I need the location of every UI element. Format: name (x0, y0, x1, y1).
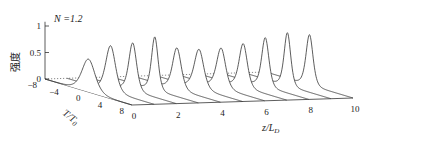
t-axis-label: T/T0 (60, 107, 82, 128)
intensity-tick-label: 0.5 (30, 48, 42, 58)
t-tick-label: 8 (120, 106, 125, 116)
t-tick-label: −8 (27, 80, 37, 90)
z-tick-label: 2 (176, 110, 181, 120)
z-tick-label: 6 (264, 107, 269, 117)
t-tick-label: −4 (49, 87, 59, 97)
z-tick-label: 8 (309, 105, 314, 115)
z-tick-label: 0 (132, 111, 137, 121)
intensity-tick-label: 1 (37, 21, 42, 31)
t-tick-label: 4 (98, 100, 103, 110)
curve-occluder (244, 33, 331, 99)
x-axis-label: z/LD (261, 122, 279, 135)
z-tick-label: 4 (220, 108, 225, 118)
annotation-label: N =1.2 (53, 13, 82, 24)
z-axis-label: 强度 (9, 52, 21, 72)
curve-occluder (266, 35, 353, 98)
intensity-tick-label: 0 (37, 74, 42, 84)
waterfall-chart: 00.51−8−40480246810 N =1.2 强度 z/LD T/T0 (0, 0, 423, 146)
t-tick-label: 0 (76, 93, 81, 103)
z-tick-label: 10 (351, 104, 361, 114)
pulse-curves (45, 33, 353, 105)
